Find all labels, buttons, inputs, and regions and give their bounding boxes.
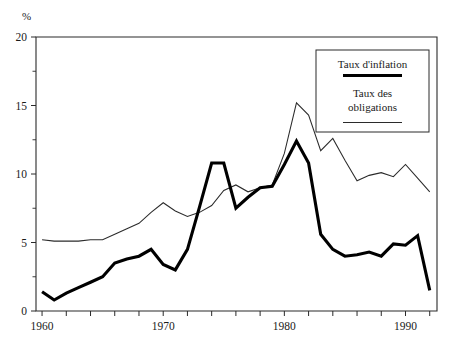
line-chart-canvas: 05101520 1960197019801990 % Taux d'infla… — [0, 0, 455, 351]
legend: Taux d'inflation Taux des obligations — [316, 50, 429, 132]
y-tick-label: 15 — [16, 100, 28, 112]
legend-item-label-inflation: Taux d'inflation — [338, 58, 408, 70]
legend-item-label-obligations-line2: obligations — [348, 101, 397, 113]
legend-item-label-obligations-line1: Taux des — [353, 87, 392, 99]
y-tick-label: 10 — [16, 168, 28, 180]
y-tick-label: 20 — [16, 31, 28, 43]
x-tick-label: 1970 — [152, 320, 175, 332]
y-axis: 05101520 — [16, 31, 37, 317]
x-axis: 1960197019801990 — [31, 311, 430, 332]
series-line-taux-d-inflation — [42, 141, 430, 300]
y-tick-label: 0 — [21, 305, 27, 317]
x-tick-label: 1960 — [31, 320, 54, 332]
chart-figure: 05101520 1960197019801990 % Taux d'infla… — [0, 0, 455, 351]
y-tick-label: 5 — [21, 237, 27, 249]
x-tick-label: 1980 — [273, 320, 296, 332]
y-axis-unit-label: % — [22, 10, 31, 22]
x-tick-label: 1990 — [394, 320, 417, 332]
